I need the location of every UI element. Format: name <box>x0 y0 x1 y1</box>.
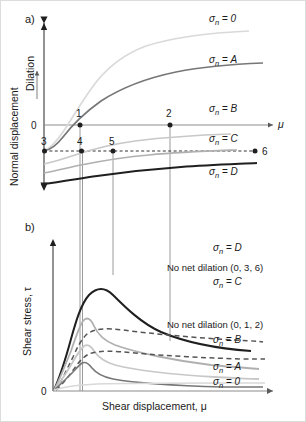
panel-b-letter: b) <box>25 221 35 233</box>
point-label-2: 2 <box>166 108 172 119</box>
annotation-no-net-dilation-012: No net dilation (0, 1, 2) <box>167 319 263 330</box>
point-label-1: 1 <box>76 108 82 119</box>
curve-label-sigma-C-panel-a: σn = C <box>209 133 239 147</box>
panel-a: a) 0 μ Normal displacement Dilation 1 2 … <box>8 13 284 191</box>
point-label-5: 5 <box>109 136 115 147</box>
curve-label-sigma-B-panel-a: σn = B <box>209 103 238 117</box>
point-marker-3 <box>42 149 47 154</box>
point-label-3: 3 <box>41 136 47 147</box>
panel-b: b) 0 Shear stress, τ Shear displacement,… <box>21 221 273 412</box>
point-label-6: 6 <box>262 146 268 157</box>
curve-label-sigma-D-panel-b: σn = D <box>213 242 242 256</box>
point-marker-1 <box>78 123 83 128</box>
panel-a-zero-label: 0 <box>31 120 37 131</box>
curve-label-sigma-D-panel-a: σn = D <box>209 166 238 180</box>
panel-a-x-axis-label: μ <box>277 118 284 130</box>
point-label-4: 4 <box>77 136 83 147</box>
curve-label-sigma-B-panel-b: σn = B <box>213 334 242 348</box>
point-marker-5 <box>111 149 116 154</box>
figure-container: a) 0 μ Normal displacement Dilation 1 2 … <box>0 0 306 422</box>
figure-svg: a) 0 μ Normal displacement Dilation 1 2 … <box>1 1 305 421</box>
point-marker-2 <box>168 123 173 128</box>
point-marker-6 <box>253 149 258 154</box>
panel-b-zero-label: 0 <box>41 386 47 397</box>
curve-sigma-B-panel-a <box>44 134 231 164</box>
curve-label-sigma-A-panel-b: σn = A <box>213 361 242 375</box>
panel-a-letter: a) <box>25 13 35 25</box>
panel-a-y-axis-label: Normal displacement <box>8 87 20 186</box>
curve-label-sigma-C-panel-b: σn = C <box>213 276 243 290</box>
panel-b-x-axis-label: Shear displacement, μ <box>102 400 207 412</box>
panel-a-dilation-label: Dilation <box>24 56 36 91</box>
curve-label-sigma-0-panel-a: σn = 0 <box>209 13 237 27</box>
panel-b-y-axis-label: Shear stress, τ <box>21 286 33 356</box>
point-marker-4 <box>79 149 84 154</box>
annotation-no-net-dilation-036: No net dilation (0, 3, 6) <box>167 262 263 273</box>
